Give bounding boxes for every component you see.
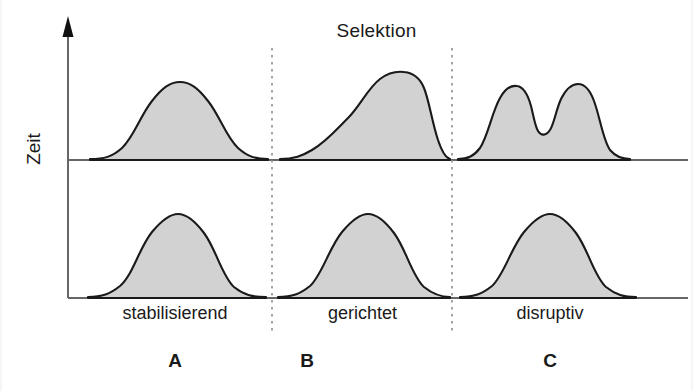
condition-label-stabilisierend: stabilisierend [90, 303, 260, 324]
figure-root: Selektion Zeit stabilisierend gerichtet … [0, 0, 693, 391]
condition-label-gerichtet: gerichtet [285, 303, 440, 324]
y-axis-label: Zeit [23, 99, 45, 199]
curve-stabilisierend-after [90, 82, 268, 160]
diagram-title: Selektion [0, 20, 693, 42]
y-axis-group [63, 16, 74, 298]
curve-disruptiv-after [458, 84, 630, 160]
curve-disruptiv-before [460, 214, 636, 298]
curve-gerichtet-before [278, 214, 450, 298]
curve-stabilisierend-before [88, 214, 266, 298]
selection-diagram-svg [0, 0, 693, 391]
panel-letter-b: B [272, 350, 342, 372]
panel-letter-c: C [515, 350, 585, 372]
condition-label-disruptiv: disruptiv [470, 303, 630, 324]
curve-gerichtet-after [280, 72, 450, 160]
panel-letter-a: A [140, 350, 210, 372]
